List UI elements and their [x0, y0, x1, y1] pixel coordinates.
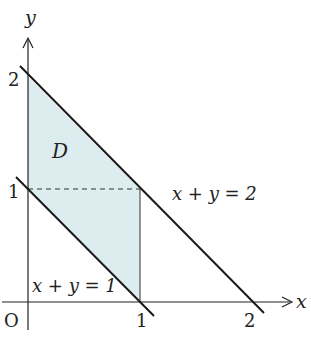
diagram: y x O 2 1 1 2 D x + y = 2 x + y = 1	[0, 0, 311, 337]
y-tick-1: 1	[8, 181, 19, 202]
x-axis-label: x	[296, 290, 307, 312]
x-tick-2: 2	[244, 310, 255, 331]
line-label-x-plus-y-equals-2: x + y = 2	[172, 183, 257, 204]
x-tick-1: 1	[136, 310, 147, 331]
region-label: D	[51, 139, 68, 163]
line-label-x-plus-y-equals-1: x + y = 1	[32, 275, 117, 296]
y-axis-label: y	[24, 6, 36, 28]
y-tick-2: 2	[8, 69, 19, 90]
origin-label: O	[4, 310, 19, 331]
diagram-svg: y x O 2 1 1 2 D x + y = 2 x + y = 1	[0, 0, 311, 337]
